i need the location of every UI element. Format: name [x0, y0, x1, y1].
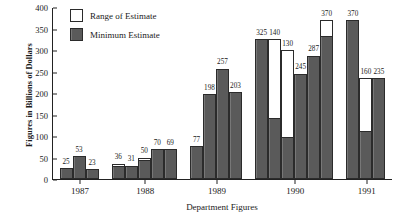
bar: 53: [73, 156, 86, 179]
y-axis-tick-label: 200: [8, 89, 53, 99]
x-axis-tick-label: 1991: [358, 186, 376, 196]
chart-legend: Range of Estimate Minimum Estimate: [70, 9, 160, 41]
bar-minimum-fill: [295, 75, 306, 178]
bar-value-label: 325: [256, 30, 267, 37]
y-axis-tick-mark: [53, 51, 57, 52]
bar: 140: [268, 39, 281, 179]
bar-value-label: 53: [76, 147, 83, 154]
bar-value-label: 245: [295, 64, 306, 71]
y-axis-tick-label: 50: [8, 154, 53, 164]
bar-group-1989: 77198257203: [190, 8, 242, 179]
y-axis-tick-label: 350: [8, 25, 53, 35]
x-axis-tick-mark: [80, 179, 81, 184]
bar-minimum-fill: [126, 167, 137, 178]
x-axis-tick-label: 1990: [286, 186, 304, 196]
bar-minimum-fill: [269, 118, 280, 178]
legend-swatch-minimum-icon: [70, 28, 83, 41]
bar-minimum-fill: [230, 93, 241, 178]
bar: 257: [216, 69, 229, 180]
bar: 235: [372, 78, 385, 179]
bar-minimum-fill: [139, 160, 150, 178]
bar-minimum-fill: [308, 57, 319, 178]
bar-minimum-fill: [373, 79, 384, 178]
bar-value-label: 36: [115, 154, 122, 161]
bar-value-label: 140: [269, 30, 280, 37]
bar: 23: [86, 169, 99, 179]
bar: 370: [346, 20, 359, 179]
legend-item-range: Range of Estimate: [70, 9, 160, 22]
bar-minimum-fill: [217, 70, 228, 179]
bar: 130: [281, 50, 294, 179]
bar: 287: [307, 56, 320, 179]
bar: 69: [164, 149, 177, 179]
legend-swatch-range-icon: [70, 9, 83, 22]
bar: 370: [320, 20, 333, 179]
legend-item-minimum: Minimum Estimate: [70, 28, 160, 41]
bar-value-label: 50: [141, 148, 148, 155]
legend-label-range: Range of Estimate: [90, 11, 156, 21]
x-axis-tick-label: 1988: [136, 186, 154, 196]
bar-minimum-fill: [360, 131, 371, 178]
bar-minimum-fill: [152, 150, 163, 178]
y-axis-tick-mark: [53, 72, 57, 73]
y-axis-tick-mark: [53, 158, 57, 159]
bar-value-label: 130: [282, 41, 293, 48]
bar: 31: [125, 166, 138, 179]
x-axis-title: Department Figures: [52, 202, 392, 212]
bar-value-label: 70: [154, 140, 161, 147]
bar-minimum-fill: [204, 95, 215, 178]
bar-minimum-fill: [321, 36, 332, 178]
bar-value-label: 69: [167, 140, 174, 147]
bar-minimum-fill: [165, 150, 176, 178]
bar-minimum-fill: [282, 137, 293, 178]
bar: 50: [138, 158, 151, 180]
bar-value-label: 198: [204, 85, 215, 92]
x-axis-tick-label: 1987: [71, 186, 89, 196]
bar-chart: Figures in Billions of Dollars 255323363…: [0, 0, 399, 222]
y-axis-tick-label: 250: [8, 68, 53, 78]
x-axis-tick-label: 1989: [208, 186, 226, 196]
bar-value-label: 235: [373, 69, 384, 76]
bar-value-label: 77: [193, 137, 200, 144]
bar-group-1991: 370160235: [346, 8, 385, 179]
bar-value-label: 370: [321, 11, 332, 18]
x-axis-tick-mark: [366, 179, 367, 184]
y-axis-tick-label: 150: [8, 111, 53, 121]
bar-value-label: 160: [360, 69, 371, 76]
bar-value-label: 203: [230, 83, 241, 90]
x-axis-tick-mark: [145, 179, 146, 184]
bar: 198: [203, 94, 216, 179]
bar: 70: [151, 149, 164, 179]
bar: 160: [359, 78, 372, 179]
y-axis-tick-mark: [53, 29, 57, 30]
bar-value-label: 370: [347, 11, 358, 18]
bar-minimum-fill: [61, 169, 72, 178]
bar-minimum-fill: [191, 147, 202, 178]
bar-minimum-fill: [256, 40, 267, 178]
bar-value-label: 287: [308, 46, 319, 53]
y-axis-tick-mark: [53, 137, 57, 138]
y-axis-tick-label: 300: [8, 46, 53, 56]
bar-value-label: 23: [89, 160, 96, 167]
y-axis-tick-mark: [53, 115, 57, 116]
bar-minimum-fill: [347, 21, 358, 178]
y-axis-tick-label: 0: [8, 175, 53, 185]
legend-label-minimum: Minimum Estimate: [90, 30, 160, 40]
bar: 203: [229, 92, 242, 179]
y-axis-tick-mark: [53, 180, 57, 181]
bar: 36: [112, 164, 125, 179]
bar-minimum-fill: [113, 166, 124, 178]
y-axis-tick-label: 100: [8, 132, 53, 142]
bar-minimum-fill: [87, 170, 98, 178]
x-axis-tick-mark: [295, 179, 296, 184]
x-axis-tick-mark: [216, 179, 217, 184]
bar-value-label: 31: [128, 156, 135, 163]
bar-value-label: 25: [63, 159, 70, 166]
bar-minimum-fill: [74, 157, 85, 178]
bar: 77: [190, 146, 203, 179]
y-axis-tick-label: 400: [8, 3, 53, 13]
y-axis-tick-mark: [53, 94, 57, 95]
bar: 245: [294, 74, 307, 179]
bar-group-1990: 325140130245287370: [255, 8, 333, 179]
y-axis-tick-mark: [53, 8, 57, 9]
